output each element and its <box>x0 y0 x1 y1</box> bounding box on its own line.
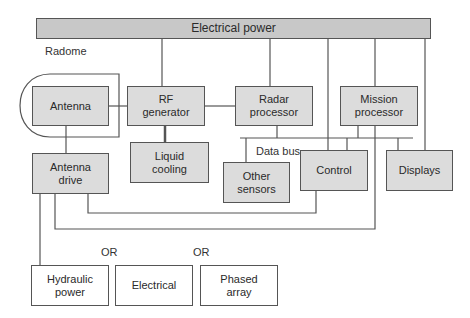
or-label-1: OR <box>101 246 118 258</box>
hydraulic-power-block: Hydraulic power <box>31 265 109 306</box>
electrical-power-bar: Electrical power <box>36 18 431 39</box>
antenna-block: Antenna <box>32 86 109 126</box>
control-block: Control <box>300 150 368 191</box>
or-label-2: OR <box>193 246 210 258</box>
liquid-cooling-block: Liquid cooling <box>130 142 209 183</box>
phased-array-label: Phased array <box>220 273 257 299</box>
electrical-power-label: Electrical power <box>191 22 276 35</box>
electrical-block: Electrical <box>115 265 193 306</box>
radar-processor-block: Radar processor <box>235 86 313 126</box>
liquid-cooling-label: Liquid cooling <box>152 150 187 176</box>
antenna-label: Antenna <box>50 100 91 113</box>
control-label: Control <box>316 164 351 177</box>
rf-generator-block: RF generator <box>127 86 205 126</box>
antenna-drive-label: Antenna drive <box>50 161 91 187</box>
displays-label: Displays <box>399 164 441 177</box>
radar-processor-label: Radar processor <box>250 93 298 119</box>
antenna-drive-block: Antenna drive <box>32 153 109 194</box>
other-sensors-block: Other sensors <box>223 162 290 203</box>
rf-generator-label: RF generator <box>142 93 189 119</box>
hydraulic-power-label: Hydraulic power <box>47 273 93 299</box>
mission-processor-label: Mission processor <box>355 93 403 119</box>
other-sensors-label: Other sensors <box>237 170 276 196</box>
mission-processor-block: Mission processor <box>340 86 418 126</box>
data-bus-label: Data bus <box>256 145 300 157</box>
displays-block: Displays <box>386 150 453 191</box>
radome-label: Radome <box>45 45 87 57</box>
phased-array-block: Phased array <box>200 265 278 306</box>
electrical-label: Electrical <box>132 279 177 292</box>
